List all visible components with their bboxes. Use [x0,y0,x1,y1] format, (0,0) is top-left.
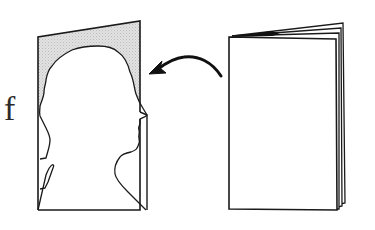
card-right-fold [140,112,147,210]
silhouette-card [38,21,147,210]
booklet-front-cover [229,37,337,210]
booklet [229,23,345,210]
diagram-illustration [0,0,375,230]
diagram-canvas: f [0,0,375,230]
arrow-icon [149,57,221,76]
